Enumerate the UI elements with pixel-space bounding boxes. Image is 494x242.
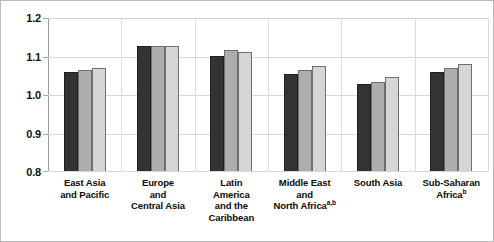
x-tick-label-line: and xyxy=(121,189,194,201)
x-tick-label-line: East Asia xyxy=(48,177,121,189)
group-separator xyxy=(488,18,489,172)
y-axis-tick xyxy=(43,95,48,96)
x-tick-label: Middle EastandNorth Africaa,b xyxy=(268,177,341,212)
bar-group xyxy=(268,17,341,171)
bar xyxy=(458,64,472,171)
y-tick-label: 1.1 xyxy=(1,51,41,63)
x-tick-label: South Asia xyxy=(341,177,414,189)
bar xyxy=(430,72,444,171)
y-tick-label: 1.2 xyxy=(1,12,41,24)
x-tick-label-line: North Africaa,b xyxy=(268,200,341,212)
bar xyxy=(137,46,151,171)
bar xyxy=(357,84,371,171)
x-tick-label: Sub-SaharanAfricab xyxy=(415,177,488,200)
y-axis-tick xyxy=(43,171,48,172)
x-tick-label-line: and Pacific xyxy=(48,189,121,201)
bar xyxy=(92,68,106,171)
bar xyxy=(210,56,224,172)
footnote-marker: b xyxy=(463,187,467,194)
bar xyxy=(238,52,252,171)
footnote-marker: a,b xyxy=(327,199,336,206)
x-tick-label-line: Europe xyxy=(121,177,194,189)
bar xyxy=(444,68,458,171)
y-axis-tick xyxy=(43,134,48,135)
bar-group xyxy=(415,17,488,171)
chart-figure: 0.80.91.01.11.2 East Asiaand PacificEuro… xyxy=(0,0,494,242)
bar xyxy=(151,46,165,172)
x-tick-label: LatinAmericaand theCaribbean xyxy=(195,177,268,223)
bar xyxy=(371,82,385,171)
x-tick-label-line: Central Asia xyxy=(121,200,194,212)
bar xyxy=(64,72,78,171)
bar xyxy=(284,74,298,171)
y-axis-tick xyxy=(43,57,48,58)
x-tick-label-line: South Asia xyxy=(341,177,414,189)
bar xyxy=(224,50,238,171)
bar xyxy=(78,70,92,171)
x-tick-label-line: Latin xyxy=(195,177,268,189)
y-axis-tick xyxy=(43,18,48,19)
bar xyxy=(298,70,312,171)
bar xyxy=(385,77,399,171)
x-tick-label: EuropeandCentral Asia xyxy=(121,177,194,212)
x-tick-label-line: America xyxy=(195,189,268,201)
bar xyxy=(312,66,326,171)
x-tick-label: East Asiaand Pacific xyxy=(48,177,121,200)
x-tick-label-line: Africab xyxy=(415,189,488,201)
bar-group xyxy=(195,17,268,171)
y-tick-label: 0.8 xyxy=(1,166,41,178)
plot-area xyxy=(48,18,488,172)
x-tick-label-line: Sub-Saharan xyxy=(415,177,488,189)
x-tick-label-line: Caribbean xyxy=(195,212,268,224)
bar xyxy=(165,46,179,171)
y-tick-label: 1.0 xyxy=(1,89,41,101)
x-axis-labels: East Asiaand PacificEuropeandCentral Asi… xyxy=(48,177,488,241)
bar-group xyxy=(48,17,121,171)
x-tick-label-line: and the xyxy=(195,200,268,212)
bar-group xyxy=(341,17,414,171)
x-tick-label-line: Middle East xyxy=(268,177,341,189)
y-tick-label: 0.9 xyxy=(1,128,41,140)
bar-group xyxy=(121,17,194,171)
